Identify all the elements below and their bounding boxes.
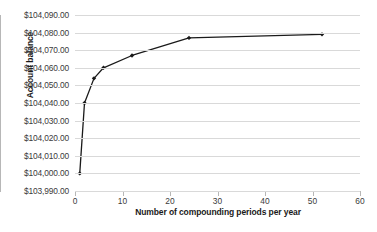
- y-axis-tick-label: $104,080.00: [24, 28, 69, 38]
- gridline: [75, 15, 360, 16]
- plot-area: [75, 15, 360, 191]
- gridline: [75, 156, 360, 157]
- x-axis-tick-label: 40: [260, 196, 269, 206]
- x-axis-tick-label: 60: [355, 196, 364, 206]
- x-axis-tick-label: 10: [118, 196, 127, 206]
- y-axis-tick-label: $104,010.00: [24, 151, 69, 161]
- y-axis-tick-label: $104,050.00: [24, 80, 69, 90]
- x-axis-tick-label: 20: [165, 196, 174, 206]
- y-axis-tick-label: $104,070.00: [24, 45, 69, 55]
- gridline: [75, 173, 360, 174]
- x-axis-title: Number of compounding periods per year: [75, 207, 361, 217]
- gridline: [75, 121, 360, 122]
- y-axis-tick-label: $104,000.00: [24, 168, 69, 178]
- y-axis-tick-label: $104,040.00: [24, 98, 69, 108]
- gridline: [75, 68, 360, 69]
- gridline: [75, 85, 360, 86]
- data-point-marker: [187, 36, 191, 40]
- y-axis-tick-label: $104,020.00: [24, 133, 69, 143]
- y-axis-line: [0, 15, 1, 192]
- gridline: [75, 138, 360, 139]
- gridline: [75, 33, 360, 34]
- data-point-marker: [130, 53, 134, 57]
- y-axis-tick-label: $104,090.00: [24, 10, 69, 20]
- y-axis-tick-label: $104,030.00: [24, 116, 69, 126]
- gridline: [75, 103, 360, 104]
- y-axis-tick-label: $104,060.00: [24, 63, 69, 73]
- x-axis-tick-label: 0: [73, 196, 78, 206]
- chart-container: Account balance $103,990.00$104,000.00$1…: [0, 0, 377, 232]
- x-axis-tick-label: 50: [308, 196, 317, 206]
- x-axis-tick-label: 30: [213, 196, 222, 206]
- gridline: [75, 50, 360, 51]
